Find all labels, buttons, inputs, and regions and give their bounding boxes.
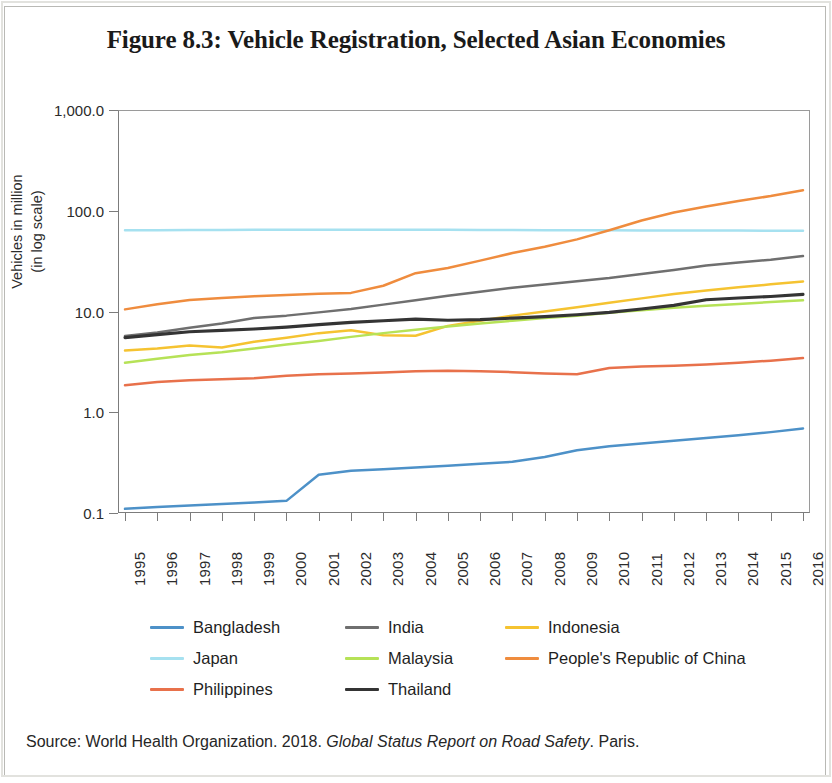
- x-axis-tick: [803, 513, 804, 521]
- x-axis-tick-label: 1997: [196, 552, 213, 586]
- y-axis-tick: [109, 312, 118, 313]
- legend-label-indonesia: Indonesia: [548, 618, 620, 637]
- x-axis-tick: [319, 513, 320, 521]
- x-axis-tick: [157, 513, 158, 521]
- x-axis-tick: [609, 513, 610, 521]
- y-axis-label-line1: Vehicles in million: [8, 112, 28, 352]
- legend-swatch-people-s-republic-of-china: [505, 657, 539, 660]
- legend-item-indonesia[interactable]: Indonesia: [505, 618, 805, 637]
- x-axis-tick-label: 2015: [777, 552, 794, 586]
- legend-swatch-indonesia: [505, 626, 539, 629]
- x-axis-tick: [351, 513, 352, 521]
- y-axis-tick-label: 1,000.0: [54, 102, 104, 119]
- legend-label-india: India: [388, 618, 424, 637]
- x-axis-tick-label: 1995: [131, 552, 148, 586]
- legend-swatch-india: [345, 626, 379, 629]
- y-axis-tick: [109, 513, 118, 514]
- source-prefix: Source: World Health Organization. 2018.: [26, 733, 326, 750]
- y-axis-tick-label: 1.0: [83, 404, 104, 421]
- x-axis-tick: [222, 513, 223, 521]
- x-axis-tick: [545, 513, 546, 521]
- legend-item-thailand[interactable]: Thailand: [345, 680, 505, 699]
- x-axis-tick-label: 2011: [648, 553, 665, 586]
- series-line-indonesia: [125, 281, 803, 350]
- legend-label-bangladesh: Bangladesh: [193, 618, 280, 637]
- series-line-japan: [125, 230, 803, 231]
- x-axis-labels: 1995199619971998199920002001200220032004…: [118, 524, 810, 599]
- x-axis-tick: [577, 513, 578, 521]
- x-axis-tick: [254, 513, 255, 521]
- legend-label-philippines: Philippines: [193, 680, 273, 699]
- legend-swatch-philippines: [150, 688, 184, 691]
- x-axis-tick-label: 2009: [583, 552, 600, 586]
- figure-page: Figure 8.3: Vehicle Registration, Select…: [0, 0, 832, 783]
- series-line-thailand: [125, 294, 803, 337]
- x-axis-tick: [738, 513, 739, 521]
- legend-item-malaysia[interactable]: Malaysia: [345, 649, 505, 668]
- source-title: Global Status Report on Road Safety: [326, 733, 589, 750]
- x-axis-tick-label: 2007: [518, 552, 535, 586]
- y-axis-tick-label: 0.1: [83, 505, 104, 522]
- legend-swatch-thailand: [345, 688, 379, 691]
- y-axis-label: Vehicles in million (in log scale): [8, 112, 47, 352]
- y-axis-tick-label: 10.0: [75, 303, 104, 320]
- x-axis-tick-label: 2010: [615, 552, 632, 586]
- legend-item-people-s-republic-of-china[interactable]: People's Republic of China: [505, 649, 805, 668]
- x-axis-tick-label: 1996: [163, 552, 180, 586]
- series-lines: [118, 110, 810, 513]
- x-axis-tick-label: 2002: [357, 552, 374, 586]
- x-axis-tick-label: 1999: [260, 552, 277, 586]
- x-axis-tick: [771, 513, 772, 521]
- x-axis-tick: [480, 513, 481, 521]
- series-line-bangladesh: [125, 428, 803, 508]
- x-axis-tick: [383, 513, 384, 521]
- x-axis-ticks: [118, 513, 810, 523]
- source-note: Source: World Health Organization. 2018.…: [26, 733, 639, 751]
- x-axis-tick: [706, 513, 707, 521]
- y-axis-tick-label: 100.0: [66, 202, 104, 219]
- x-axis-tick-label: 2006: [486, 552, 503, 586]
- legend-swatch-malaysia: [345, 657, 379, 660]
- x-axis-tick-label: 2003: [389, 552, 406, 586]
- source-suffix: . Paris.: [590, 733, 640, 750]
- chart-legend: BangladeshIndiaIndonesiaJapanMalaysiaPeo…: [150, 612, 810, 705]
- x-axis-tick: [416, 513, 417, 521]
- x-axis-tick: [190, 513, 191, 521]
- chart-plot-area: [118, 110, 810, 513]
- x-axis-tick: [642, 513, 643, 521]
- legend-label-people-s-republic-of-china: People's Republic of China: [548, 649, 746, 668]
- x-axis-tick-label: 2008: [551, 552, 568, 586]
- x-axis-tick: [674, 513, 675, 521]
- x-axis-tick-label: 2000: [292, 552, 309, 586]
- legend-item-bangladesh[interactable]: Bangladesh: [150, 618, 345, 637]
- legend-item-philippines[interactable]: Philippines: [150, 680, 345, 699]
- x-axis-tick-label: 2004: [422, 552, 439, 586]
- legend-label-malaysia: Malaysia: [388, 649, 453, 668]
- x-axis-tick: [286, 513, 287, 521]
- legend-label-japan: Japan: [193, 649, 238, 668]
- legend-swatch-japan: [150, 657, 184, 660]
- x-axis-tick-label: 1998: [228, 552, 245, 586]
- x-axis-tick-label: 2005: [454, 552, 471, 586]
- x-axis-tick-label: 2014: [744, 552, 761, 586]
- figure-title: Figure 8.3: Vehicle Registration, Select…: [0, 26, 832, 54]
- x-axis-tick-label: 2012: [680, 552, 697, 586]
- y-axis-tick: [109, 110, 118, 111]
- x-axis-tick: [448, 513, 449, 521]
- y-axis-label-line2: (in log scale): [28, 112, 48, 352]
- legend-item-japan[interactable]: Japan: [150, 649, 345, 668]
- x-axis-tick: [125, 513, 126, 521]
- legend-label-thailand: Thailand: [388, 680, 451, 699]
- y-axis-tick: [109, 412, 118, 413]
- series-line-philippines: [125, 358, 803, 385]
- legend-swatch-bangladesh: [150, 626, 184, 629]
- x-axis-tick-label: 2016: [809, 552, 826, 586]
- x-axis-tick-label: 2001: [325, 552, 342, 586]
- x-axis-tick-label: 2013: [712, 552, 729, 586]
- x-axis-tick: [512, 513, 513, 521]
- legend-item-india[interactable]: India: [345, 618, 505, 637]
- y-axis-tick: [109, 211, 118, 212]
